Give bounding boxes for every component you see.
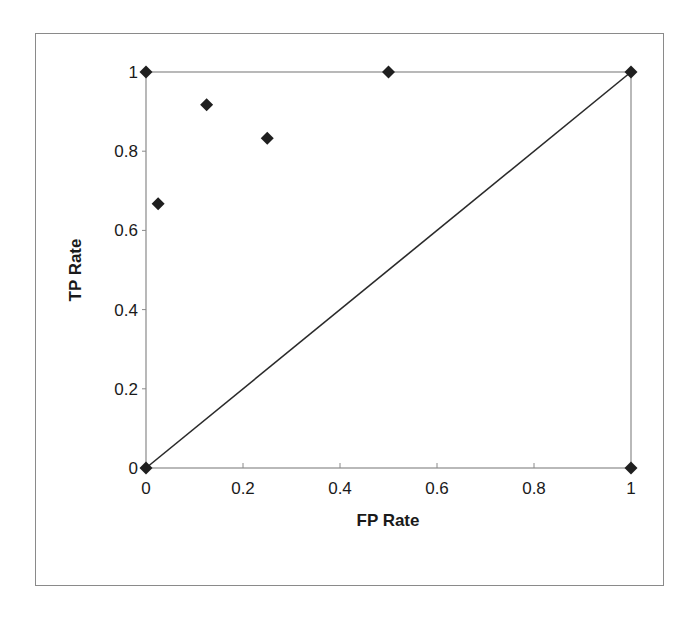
roc-chart: 00.20.40.60.81 00.20.40.60.81 FP Rate TP…	[0, 0, 697, 622]
data-point-diamond	[140, 66, 153, 79]
x-tick-label: 0.8	[522, 479, 546, 498]
x-tick-label: 0.2	[231, 479, 255, 498]
data-point-diamond	[200, 98, 213, 111]
y-tick-label: 1	[129, 63, 138, 82]
diagonal-line	[146, 72, 631, 468]
y-tick-label: 0.8	[114, 142, 138, 161]
x-tick-label: 0	[141, 479, 150, 498]
y-axis-title: TP Rate	[66, 239, 85, 302]
data-point-diamond	[261, 132, 274, 145]
x-tick-label: 0.4	[328, 479, 352, 498]
x-axis-title: FP Rate	[357, 511, 420, 530]
data-point-diamond	[625, 462, 638, 475]
x-tick-label: 0.6	[425, 479, 449, 498]
y-axis-ticks: 00.20.40.60.81	[114, 63, 146, 478]
y-tick-label: 0.2	[114, 380, 138, 399]
y-tick-label: 0.6	[114, 221, 138, 240]
data-point-diamond	[382, 66, 395, 79]
y-tick-label: 0.4	[114, 301, 138, 320]
y-tick-label: 0	[129, 459, 138, 478]
data-point-diamond	[152, 197, 165, 210]
series-layer	[140, 66, 638, 475]
x-tick-label: 1	[626, 479, 635, 498]
